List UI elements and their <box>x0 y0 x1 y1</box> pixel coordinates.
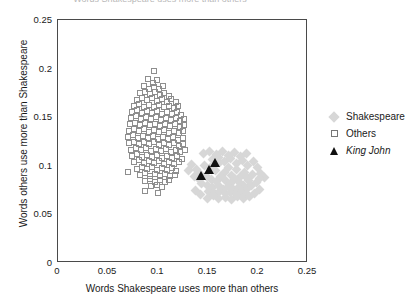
chart-title: Words Shakespeare uses more than others <box>0 0 320 4</box>
data-point-others <box>152 179 158 185</box>
data-point-others <box>133 113 139 119</box>
data-point-others <box>159 184 165 190</box>
y-tick-label: 0.25 <box>34 14 53 25</box>
data-point-shakespeare <box>223 162 233 172</box>
data-point-shakespeare <box>209 191 219 201</box>
data-point-shakespeare <box>217 147 227 157</box>
legend-item-shakespeare[interactable]: Shakespeare <box>327 108 415 125</box>
data-point-others <box>174 109 180 115</box>
data-point-others <box>157 177 163 183</box>
data-point-others <box>160 134 166 140</box>
data-point-others <box>155 136 161 142</box>
data-point-others <box>141 126 147 132</box>
diamond-marker-icon <box>327 111 341 123</box>
data-point-others <box>164 99 170 105</box>
data-point-others <box>132 120 138 126</box>
data-point-others <box>146 129 152 135</box>
data-point-others <box>176 143 182 149</box>
data-point-others <box>174 153 180 159</box>
data-point-others <box>141 83 147 89</box>
data-point-others <box>147 122 153 128</box>
data-point-others <box>150 80 156 86</box>
data-point-others <box>156 129 162 135</box>
data-point-shakespeare <box>211 177 221 187</box>
data-point-shakespeare <box>214 153 224 163</box>
data-point-others <box>142 170 148 176</box>
data-point-others <box>150 133 156 139</box>
data-point-others <box>142 178 148 184</box>
data-point-shakespeare <box>202 181 212 191</box>
data-point-shakespeare <box>231 190 241 200</box>
data-point-shakespeare <box>251 177 261 187</box>
data-point-shakespeare <box>227 170 237 180</box>
data-point-others <box>161 140 167 146</box>
data-point-others <box>154 182 160 188</box>
data-point-others <box>144 108 150 114</box>
data-point-others <box>181 122 187 128</box>
data-point-shakespeare <box>202 194 212 204</box>
plot-area <box>57 19 307 262</box>
data-point-others <box>161 90 167 96</box>
data-point-others <box>182 147 188 153</box>
data-point-others <box>173 99 179 105</box>
data-point-others <box>157 123 163 129</box>
data-point-others <box>142 188 148 194</box>
data-point-others <box>172 172 178 178</box>
x-axis-label: Words Shakespeare uses more than others <box>57 283 307 294</box>
data-point-shakespeare <box>224 150 234 160</box>
data-point-others <box>129 109 135 115</box>
data-point-others <box>148 148 154 154</box>
data-point-shakespeare <box>220 192 230 202</box>
data-point-others <box>146 86 152 92</box>
data-point-others <box>143 114 149 120</box>
legend-item-label: Others <box>346 128 376 139</box>
data-point-others <box>131 139 137 145</box>
data-point-others <box>170 134 176 140</box>
data-point-others <box>129 153 135 159</box>
data-point-others <box>167 123 173 129</box>
data-point-others <box>136 101 142 107</box>
data-point-others <box>175 137 181 143</box>
data-point-others <box>147 173 153 179</box>
data-point-shakespeare <box>216 172 226 182</box>
legend: ShakespeareOthersKing John <box>327 108 415 159</box>
data-point-others <box>171 105 177 111</box>
data-point-shakespeare <box>215 186 225 196</box>
data-point-others <box>166 130 172 136</box>
data-point-others <box>166 93 172 99</box>
data-point-others <box>162 171 168 177</box>
data-point-others <box>133 145 139 151</box>
data-point-king-john <box>210 158 220 167</box>
data-point-others <box>159 165 165 171</box>
data-point-others <box>146 141 152 147</box>
data-point-others <box>128 147 134 153</box>
data-point-shakespeare <box>205 163 215 173</box>
data-point-shakespeare <box>248 157 258 167</box>
data-point-shakespeare <box>200 160 210 170</box>
data-point-others <box>148 183 154 189</box>
data-point-others <box>134 166 140 172</box>
data-point-others <box>147 91 153 97</box>
data-points-layer <box>58 20 306 261</box>
legend-item-others[interactable]: Others <box>327 125 415 142</box>
data-point-others <box>168 96 174 102</box>
data-point-others <box>145 135 151 141</box>
data-point-others <box>136 157 142 163</box>
data-point-others <box>164 167 170 173</box>
data-point-others <box>139 110 145 116</box>
data-point-others <box>159 155 165 161</box>
data-point-shakespeare <box>243 160 253 170</box>
data-point-others <box>179 156 185 162</box>
data-point-others <box>166 177 172 183</box>
legend-item-king-john[interactable]: King John <box>327 142 415 159</box>
scatter-plot-figure: Words Shakespeare uses more than others … <box>0 0 415 308</box>
x-tick-label: 0.25 <box>298 265 317 276</box>
data-point-others <box>168 117 174 123</box>
data-point-others <box>134 151 140 157</box>
data-point-shakespeare <box>220 156 230 166</box>
x-tick-label: 0.1 <box>150 265 163 276</box>
data-point-others <box>181 116 187 122</box>
data-point-others <box>151 160 157 166</box>
data-point-shakespeare <box>208 183 218 193</box>
data-point-others <box>146 102 152 108</box>
